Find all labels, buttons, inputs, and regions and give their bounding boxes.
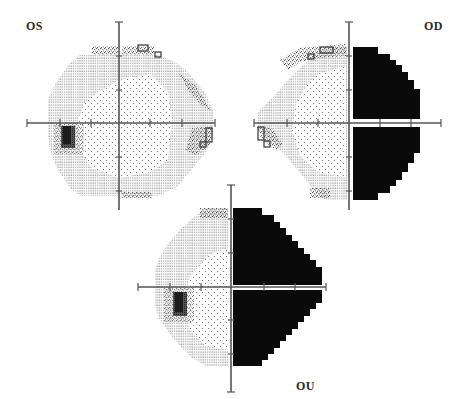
os-edge-bottom [122, 192, 152, 198]
od-defect-upper [353, 47, 420, 119]
ou-defect-upper [233, 208, 322, 285]
visual-field-figure [0, 0, 460, 399]
od-edge-bottom [310, 188, 330, 198]
ou-field-plot [138, 185, 326, 392]
od-defect-lower [353, 127, 420, 200]
os-blind-spot-core [63, 126, 71, 144]
os-edge-top-left [92, 46, 118, 55]
ou-blind-spot-core [175, 292, 183, 312]
ou-defect-lower [233, 290, 322, 366]
od-field-plot [254, 22, 441, 210]
os-field-plot [27, 22, 215, 210]
ou-edge-top [200, 208, 228, 218]
